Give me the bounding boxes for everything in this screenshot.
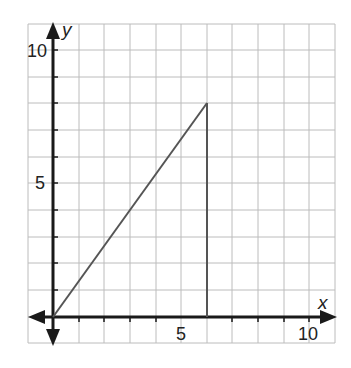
y-tick-10: 10 — [27, 41, 47, 62]
x-tick-10: 10 — [298, 324, 318, 345]
grid — [28, 24, 335, 343]
x-axis-label: x — [318, 292, 328, 314]
coordinate-plane — [0, 0, 351, 368]
y-axis-label: y — [62, 19, 72, 41]
x-tick-5: 5 — [176, 324, 186, 345]
y-tick-5: 5 — [35, 173, 45, 194]
axis-arrows — [28, 22, 337, 346]
